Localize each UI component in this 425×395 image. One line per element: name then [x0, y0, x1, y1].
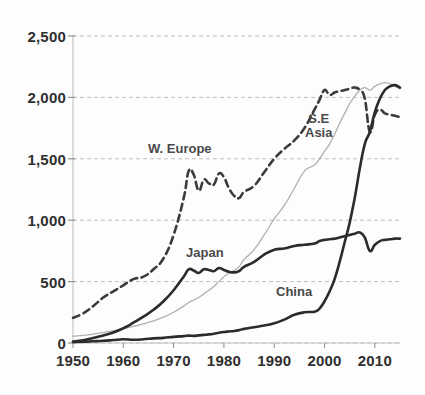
series-label-japan: Japan [186, 246, 224, 260]
line-chart: 05001,0001,5002,0002,500 195019601970198… [0, 0, 425, 395]
x-tick-label-2010: 2010 [358, 352, 392, 369]
series-label-w-europe: W. Europe [148, 142, 212, 156]
x-tick-label-1970: 1970 [157, 352, 191, 369]
x-tick-label-1960: 1960 [106, 352, 140, 369]
x-tick-label-1980: 1980 [207, 352, 241, 369]
x-tick-label-2000: 2000 [307, 352, 341, 369]
x-tick-label-1990: 1990 [257, 352, 291, 369]
series-label-se-asia: S.E Asia [305, 112, 332, 139]
series-label-japan-text: Japan [186, 245, 224, 260]
series-label-china: China [276, 285, 312, 299]
x-tick-label-1950: 1950 [56, 352, 90, 369]
series-label-se-asia-line1: S.E [305, 112, 332, 126]
series-label-se-asia-line2: Asia [305, 126, 332, 140]
series-label-china-text: China [276, 284, 312, 299]
x-axis-tick-labels: 1950196019701980199020002010 [0, 0, 425, 395]
series-label-w-europe-text: W. Europe [148, 141, 212, 156]
